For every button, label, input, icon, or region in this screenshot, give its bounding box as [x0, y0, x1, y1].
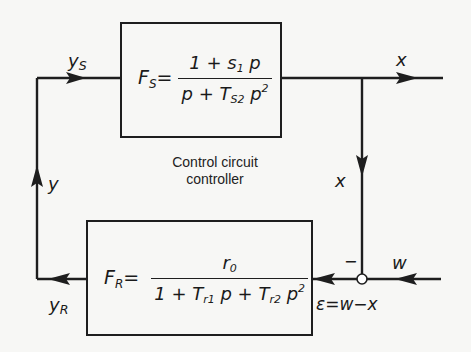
diagram-caption: Control circuit controller	[150, 154, 280, 188]
signal-y-label: y	[48, 175, 59, 193]
caption-line-2: controller	[150, 171, 280, 188]
signal-x-feedback-label: x	[335, 172, 346, 190]
plant-denominator: p + TS2 p2	[178, 82, 271, 106]
plant-transfer-function: FS= 1 + s1 p p + TS2 p2	[138, 46, 272, 112]
controller-lhs: FR=	[104, 266, 139, 291]
signal-w-label: w	[392, 254, 407, 272]
signal-yr-label: yR	[49, 296, 68, 317]
controller-denominator: 1 + Tr1 p + Tr2 p2	[151, 282, 308, 306]
signal-x-output-label: x	[396, 51, 407, 69]
plant-lhs: FS=	[138, 66, 172, 91]
control-loop-diagram: FS= 1 + s1 p p + TS2 p2 Control circuit …	[0, 0, 471, 352]
fraction-bar	[178, 78, 271, 80]
plant-fraction: 1 + s1 p p + TS2 p2	[178, 52, 271, 107]
plant-numerator: 1 + s1 p	[186, 52, 264, 75]
controller-transfer-function: FR= r0 1 + Tr1 p + Tr2 p2	[104, 246, 308, 312]
controller-numerator: r0	[219, 252, 239, 275]
summing-junction-icon	[357, 274, 367, 284]
minus-sign-label: −	[344, 254, 357, 270]
controller-fraction: r0 1 + Tr1 p + Tr2 p2	[151, 252, 308, 307]
fraction-bar	[151, 278, 308, 280]
error-signal-label: ε=w−x	[316, 296, 378, 313]
signal-ys-label: yS	[68, 52, 87, 73]
caption-line-1: Control circuit	[150, 154, 280, 171]
